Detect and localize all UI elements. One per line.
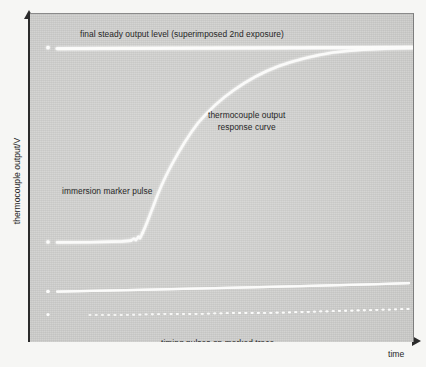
- thermocouple-response-figure: final steady output level (superimposed …: [0, 0, 426, 367]
- annotation-final-steady-level: final steady output level (superimposed …: [80, 29, 284, 40]
- trace-immersion-marker-pulse: [46, 233, 142, 244]
- annotation-response-curve-line2: response curve: [208, 122, 285, 134]
- annotation-response-curve: thermocouple output response curve: [208, 110, 285, 133]
- annotation-timing-pulses: timing pulses on marked trace: [161, 338, 274, 342]
- timing-row-edge-marker: [46, 313, 49, 316]
- trace-marked: [46, 283, 409, 293]
- y-axis-title: thermocouple output/V: [12, 111, 22, 251]
- annotation-immersion-marker-pulse: immersion marker pulse: [62, 186, 152, 197]
- trace-response-curve: [143, 48, 414, 233]
- annotation-response-curve-line1: thermocouple output: [208, 110, 285, 122]
- plot-area: final steady output level (superimposed …: [30, 13, 414, 342]
- x-axis-title: time: [388, 349, 404, 359]
- trace-canvas: [30, 14, 413, 342]
- trace-timing-pulses: [89, 308, 410, 316]
